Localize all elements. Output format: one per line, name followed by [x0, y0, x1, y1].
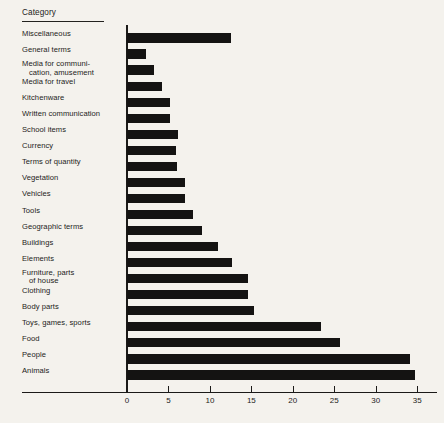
bar-row-label: Vehicles — [22, 190, 124, 198]
bar-row-label-line1: Geographic terms — [22, 222, 83, 231]
x-axis-tick — [417, 386, 418, 392]
bar-row-label-line1: Vegetation — [22, 173, 58, 182]
bar-row-label-line2: of house — [22, 277, 124, 285]
plot-area: MiscellaneousGeneral termsMedia for comm… — [0, 0, 444, 423]
bar — [127, 226, 202, 235]
bar — [127, 65, 154, 74]
bar — [127, 210, 193, 219]
bar-row-label-line1: Media for travel — [22, 77, 75, 86]
bar-row-label: Kitchenware — [22, 94, 124, 102]
bar-row-label-line1: Body parts — [22, 302, 59, 311]
x-axis-tick-label: 35 — [413, 396, 422, 405]
bar — [127, 98, 170, 107]
bar-rows: MiscellaneousGeneral termsMedia for comm… — [0, 30, 444, 383]
bar-row: People — [0, 351, 444, 367]
bar — [127, 258, 232, 267]
bar-row-label: Furniture, partsof house — [22, 269, 124, 286]
x-axis-tick-label: 0 — [125, 396, 129, 405]
bar-row-label-line1: Tools — [22, 206, 40, 215]
bar — [127, 49, 146, 58]
bar-row: Written communication — [0, 110, 444, 126]
x-axis-tick-label: 25 — [330, 396, 339, 405]
bar-row-label: Tools — [22, 207, 124, 215]
bar-row: Miscellaneous — [0, 30, 444, 46]
bar — [127, 354, 410, 363]
bar-row: Terms of quantity — [0, 158, 444, 174]
bar-row-label-line1: Animals — [22, 366, 49, 375]
bar-row: Buildings — [0, 239, 444, 255]
bar-row: Vegetation — [0, 174, 444, 190]
bar-row-label-line1: Food — [22, 334, 40, 343]
bar-row: Vehicles — [0, 190, 444, 206]
bar-row: Furniture, partsof house — [0, 271, 444, 287]
bar — [127, 194, 185, 203]
bar-row-label-line1: Media for communi- — [22, 59, 90, 68]
bar-row: Geographic terms — [0, 223, 444, 239]
bar-row-label-line2: cation, amusement — [22, 69, 124, 77]
bar-row: Clothing — [0, 287, 444, 303]
x-axis-tick-label: 5 — [166, 396, 170, 405]
bar-row-label: Written communication — [22, 110, 124, 118]
x-axis-tick — [168, 386, 169, 392]
bar — [127, 322, 321, 331]
x-axis-tick-label: 20 — [288, 396, 297, 405]
bar-row-label: School items — [22, 126, 124, 134]
bar — [127, 370, 415, 379]
bar-row-label: Body parts — [22, 303, 124, 311]
bar — [127, 162, 177, 171]
bar-row: Media for communi-cation, amusement — [0, 62, 444, 78]
bar-row-label: General terms — [22, 46, 124, 54]
bar-row-label-line1: Clothing — [22, 286, 50, 295]
bar-row: Food — [0, 335, 444, 351]
bar — [127, 130, 178, 139]
bar-row: Body parts — [0, 303, 444, 319]
x-axis-tick-label: 10 — [205, 396, 214, 405]
bar-row-label: Toys, games, sports — [22, 319, 124, 327]
x-axis-tick-label: 30 — [371, 396, 380, 405]
bar-row-label: Miscellaneous — [22, 30, 124, 38]
x-axis-line — [22, 392, 437, 393]
bar-row-label: Media for communi-cation, amusement — [22, 60, 124, 77]
bar-row: Media for travel — [0, 78, 444, 94]
bar — [127, 146, 176, 155]
bar — [127, 178, 185, 187]
bar-row-label: Media for travel — [22, 78, 124, 86]
bar-row: Toys, games, sports — [0, 319, 444, 335]
bar-row-label-line1: Currency — [22, 141, 53, 150]
bar-row-label: Elements — [22, 255, 124, 263]
bar-row-label-line1: Terms of quantity — [22, 157, 81, 166]
bar-row-label: Animals — [22, 367, 124, 375]
bar-row-label-line1: Vehicles — [22, 189, 51, 198]
bar-row-label: Buildings — [22, 239, 124, 247]
bar-row-label-line1: School items — [22, 125, 66, 134]
bar-row-label: Clothing — [22, 287, 124, 295]
x-axis-tick — [293, 386, 294, 392]
bar-row: Tools — [0, 207, 444, 223]
bar-row: Currency — [0, 142, 444, 158]
x-axis-tick — [376, 386, 377, 392]
bar-row-label-line1: People — [22, 350, 46, 359]
bar-row-label: Vegetation — [22, 174, 124, 182]
x-axis-tick — [251, 386, 252, 392]
bar-row-label: Geographic terms — [22, 223, 124, 231]
x-axis-tick — [334, 386, 335, 392]
bar — [127, 114, 170, 123]
bar-row-label-line1: Elements — [22, 254, 54, 263]
bar — [127, 338, 340, 347]
bar-chart: Category MiscellaneousGeneral termsMedia… — [0, 0, 444, 423]
bar — [127, 274, 248, 283]
bar-row-label-line1: Toys, games, sports — [22, 318, 90, 327]
bar — [127, 33, 231, 42]
bar-row: School items — [0, 126, 444, 142]
bar-row-label-line1: Miscellaneous — [22, 29, 71, 38]
bar-row-label: Currency — [22, 142, 124, 150]
x-axis-tick — [210, 386, 211, 392]
bar-row-label: Food — [22, 335, 124, 343]
bar-row-label-line1: Written communication — [22, 109, 100, 118]
bar-row-label: People — [22, 351, 124, 359]
x-axis-tick-label: 15 — [247, 396, 256, 405]
bar-row-label-line1: General terms — [22, 45, 71, 54]
bar — [127, 242, 218, 251]
bar-row-label: Terms of quantity — [22, 158, 124, 166]
bar-row: Kitchenware — [0, 94, 444, 110]
